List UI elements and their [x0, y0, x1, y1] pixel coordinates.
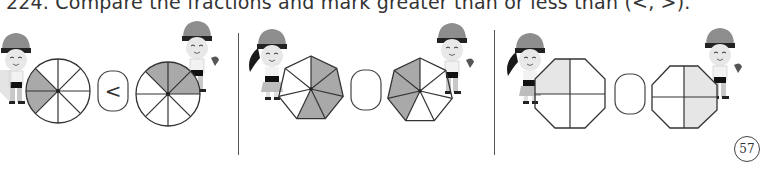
fraction-octagon-right — [652, 66, 717, 128]
fraction-octagon-left — [535, 59, 605, 128]
fraction-diagrams: < — [0, 0, 763, 169]
fraction-heptagon-left — [279, 56, 343, 119]
answer-symbol-1: < — [105, 79, 122, 103]
fraction-heptagon-right — [388, 58, 452, 121]
answer-box-2[interactable] — [351, 70, 381, 110]
answer-box-3[interactable] — [615, 74, 645, 114]
page-number-badge: 57 — [734, 136, 760, 162]
fraction-circle-left — [26, 59, 90, 123]
fraction-circle-right — [136, 62, 200, 126]
pirate-boy-icon — [437, 23, 474, 94]
answer-box-1[interactable]: < — [98, 71, 128, 111]
pirate-girl-icon — [249, 29, 287, 100]
